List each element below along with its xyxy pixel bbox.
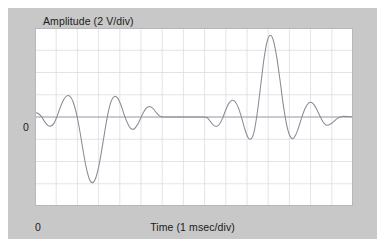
figure-panel: Amplitude (2 V/div) 0 0 Time (1 msec/div… (8, 8, 377, 239)
waveform-chart (35, 28, 353, 206)
y-axis-title: Amplitude (2 V/div) (43, 15, 134, 27)
y-axis-zero-tick-label: 0 (23, 121, 29, 133)
plot-area (35, 28, 353, 206)
x-axis-title: Time (1 msec/div) (8, 221, 377, 233)
